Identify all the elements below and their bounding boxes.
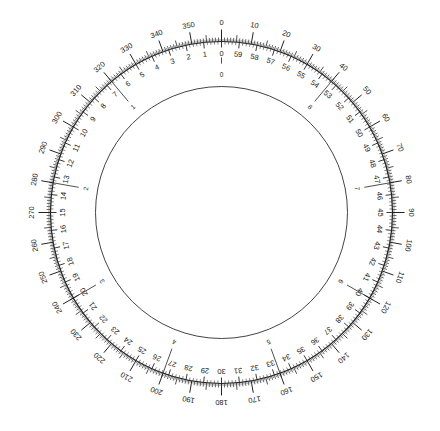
minute-tick xyxy=(239,42,240,48)
degree-tick xyxy=(385,263,389,264)
minute-label: 10 xyxy=(78,127,90,139)
degree-tick xyxy=(376,285,382,288)
degree-tick xyxy=(266,378,268,385)
degree-tick xyxy=(170,45,171,49)
degree-label: 130 xyxy=(360,327,375,342)
hour-label: 0 xyxy=(220,71,224,78)
minute-scale xyxy=(51,42,393,384)
degree-label: 190 xyxy=(182,394,196,405)
degree-tick xyxy=(272,376,273,380)
minute-tick xyxy=(152,56,154,61)
degree-label: 30 xyxy=(311,42,323,54)
minute-label: 11 xyxy=(71,142,82,153)
degree-tick xyxy=(54,263,58,264)
degree-tick xyxy=(60,279,64,281)
degree-label: 90 xyxy=(407,208,416,216)
degree-tick xyxy=(376,137,382,140)
minute-tick xyxy=(65,280,70,282)
degree-tick xyxy=(188,380,189,384)
degree-tick xyxy=(291,369,293,373)
minute-label: 12 xyxy=(65,158,76,169)
degree-tick xyxy=(310,359,312,362)
degree-tick xyxy=(245,39,246,43)
degree-tick xyxy=(385,161,389,162)
scale-ring xyxy=(51,42,393,384)
minute-tick xyxy=(318,74,322,79)
minute-tick xyxy=(304,64,307,69)
minute-tick xyxy=(169,50,171,56)
minute-label: 49 xyxy=(361,142,373,153)
minute-label: 44 xyxy=(375,225,385,234)
minute-label: 41 xyxy=(361,272,373,283)
minute-tick xyxy=(169,369,171,375)
degree-tick xyxy=(54,161,58,162)
minute-tick xyxy=(136,355,139,360)
minute-label: 50 xyxy=(353,127,365,139)
minute-label: 57 xyxy=(265,56,276,67)
degree-tick xyxy=(50,257,57,259)
degree-tick xyxy=(307,54,313,64)
minute-label: 39 xyxy=(344,300,356,312)
degree-tick xyxy=(50,166,57,168)
degree-tick xyxy=(260,379,261,383)
minute-label: 4 xyxy=(153,62,160,72)
degree-label: 80 xyxy=(403,175,413,185)
minute-label: 15 xyxy=(58,208,67,216)
minute-label: 27 xyxy=(167,358,178,369)
degree-tick xyxy=(269,44,270,48)
degree-tick xyxy=(59,147,63,149)
degree-tick xyxy=(104,343,112,352)
degree-tick xyxy=(286,50,288,54)
degree-tick xyxy=(130,54,136,64)
degree-label: 290 xyxy=(37,140,50,155)
minute-tick xyxy=(383,177,389,178)
degree-tick xyxy=(362,110,368,114)
degree-tick xyxy=(50,179,54,180)
hour-label: 5 xyxy=(265,338,271,346)
degree-tick xyxy=(182,42,183,46)
hour-label: 2 xyxy=(82,186,90,191)
minute-label: 58 xyxy=(250,52,260,63)
degree-label: 110 xyxy=(394,270,407,284)
minute-labels: 0123456789101112131415161718192021222324… xyxy=(58,49,385,376)
degree-tick xyxy=(60,285,66,288)
minute-tick xyxy=(332,335,336,339)
minute-tick xyxy=(204,377,205,383)
degree-tick xyxy=(153,370,155,374)
degree-tick xyxy=(153,51,155,55)
minute-label: 42 xyxy=(367,256,378,267)
minute-label: 55 xyxy=(295,69,307,81)
degree-tick xyxy=(386,164,390,165)
degree-label: 10 xyxy=(250,20,260,30)
degree-tick xyxy=(260,42,261,46)
minute-label: 33 xyxy=(265,358,276,369)
minute-tick xyxy=(83,309,88,313)
minute-tick xyxy=(94,323,98,327)
minute-tick xyxy=(73,127,78,130)
degree-tick xyxy=(130,361,136,371)
minute-label: 16 xyxy=(58,225,68,234)
degree-tick xyxy=(146,367,149,373)
degree-tick xyxy=(96,87,101,92)
minute-tick xyxy=(107,335,111,339)
minute-tick xyxy=(256,45,257,51)
degree-tick xyxy=(379,279,383,281)
minute-tick xyxy=(386,230,392,231)
degree-tick xyxy=(156,50,158,54)
minute-tick xyxy=(272,369,274,375)
minute-tick xyxy=(383,247,389,248)
minute-tick xyxy=(65,143,70,145)
degree-tick xyxy=(175,378,177,385)
degree-tick xyxy=(392,227,399,228)
degree-label: 340 xyxy=(149,28,164,41)
minute-label: 1 xyxy=(202,50,207,59)
degree-label: 20 xyxy=(281,28,292,39)
degree-tick xyxy=(310,63,312,66)
minute-tick xyxy=(304,355,307,360)
minute-tick xyxy=(289,363,291,368)
degree-tick xyxy=(380,277,384,279)
degree-label: 180 xyxy=(215,398,228,407)
degree-label: 160 xyxy=(279,385,294,398)
minute-label: 19 xyxy=(70,272,82,283)
degree-tick xyxy=(63,121,73,127)
